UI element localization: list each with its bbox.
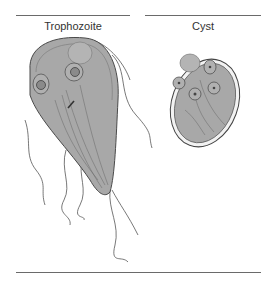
giardia-illustration (0, 0, 273, 281)
bottom-rule (16, 272, 261, 273)
